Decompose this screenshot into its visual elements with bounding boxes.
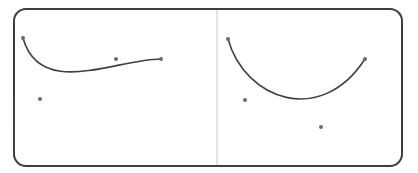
diagram-canvas — [0, 0, 418, 173]
control-point-2 — [114, 57, 118, 61]
control-point-2 — [319, 125, 323, 129]
rounded-frame — [14, 9, 402, 166]
bezier-curve — [23, 38, 161, 72]
start-point — [226, 37, 230, 41]
right-panel — [226, 37, 367, 129]
control-point-1 — [243, 98, 247, 102]
bezier-curve — [228, 39, 365, 99]
start-point — [21, 36, 25, 40]
control-point-1 — [38, 97, 42, 101]
end-point — [159, 57, 163, 61]
curve-points — [226, 37, 367, 129]
bezier-diagram — [0, 0, 418, 173]
left-panel — [21, 36, 163, 101]
curve-points — [21, 36, 163, 101]
end-point — [363, 57, 367, 61]
